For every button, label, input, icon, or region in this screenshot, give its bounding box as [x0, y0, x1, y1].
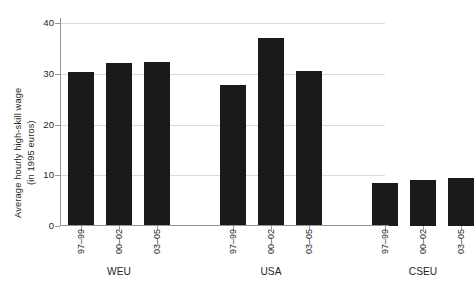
x-tick-label-text: 00–02 [114, 229, 124, 254]
x-tick-label-text: 00–02 [266, 229, 276, 254]
y-tick-label: 0 [32, 221, 54, 231]
bar [296, 71, 322, 226]
x-tick-label-text: 03–05 [152, 229, 162, 254]
x-tick-label-text: 03–05 [304, 229, 314, 254]
plot-area [60, 18, 385, 226]
x-tick-label-text: 03–05 [456, 229, 466, 254]
x-tick-label: 00–02 [410, 228, 436, 264]
group-label: WEU [68, 266, 170, 277]
y-tick-label: 30 [32, 69, 54, 79]
x-tick-label-text: 00–02 [418, 229, 428, 254]
bar [258, 38, 284, 226]
x-tick-label: 00–02 [106, 228, 132, 264]
bar [220, 85, 246, 226]
x-tick-label: 97–99 [372, 228, 398, 264]
y-axis-title-line-1: Average hourly high-skill wage [13, 88, 23, 218]
y-axis-title: Average hourly high-skill wage (in 1995 … [0, 0, 34, 240]
bar [410, 180, 436, 226]
bar [106, 63, 132, 226]
x-tick-label-text: 97–99 [76, 229, 86, 254]
x-tick-label: 03–05 [448, 228, 474, 264]
y-axis-tick-labels: 010203040 [30, 0, 54, 240]
x-tick-label-text: 97–99 [380, 229, 390, 254]
bar [144, 62, 170, 226]
bar [372, 183, 398, 226]
gridline [60, 23, 385, 24]
bar [68, 72, 94, 226]
y-tick-label: 20 [32, 120, 54, 130]
x-tick-label: 03–05 [144, 228, 170, 264]
group-label: USA [220, 266, 322, 277]
y-axis-spine [60, 18, 61, 226]
x-tick-label: 97–99 [68, 228, 94, 264]
x-tick-label: 00–02 [258, 228, 284, 264]
x-tick-label-text: 97–99 [228, 229, 238, 254]
y-tick-label: 10 [32, 170, 54, 180]
y-tick-label: 40 [32, 18, 54, 28]
x-tick-label: 03–05 [296, 228, 322, 264]
x-axis-spine [60, 225, 389, 226]
y-tick-mark [55, 226, 60, 227]
group-label: CSEU [372, 266, 474, 277]
bar [448, 178, 474, 226]
x-tick-label: 97–99 [220, 228, 246, 264]
